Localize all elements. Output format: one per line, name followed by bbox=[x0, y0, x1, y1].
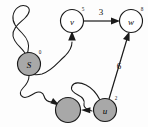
node-v-label: v bbox=[70, 17, 74, 27]
edge-weight-u-w: 6 bbox=[117, 61, 122, 71]
edge-weight-v-w: 3 bbox=[99, 7, 104, 17]
node-s[interactable]: S 0 bbox=[18, 49, 42, 76]
node-unlabeled-circle[interactable] bbox=[56, 98, 81, 123]
node-v[interactable]: v 5 bbox=[61, 6, 85, 33]
edge-u-to-w-arrowhead bbox=[123, 32, 130, 42]
node-v-superscript: 5 bbox=[82, 6, 85, 12]
node-s-label: S bbox=[27, 60, 32, 70]
edge-v-to-w-arrowhead bbox=[111, 18, 120, 25]
graph-figure: v 5 w 8 S 0 u 2 3 6 bbox=[0, 0, 148, 127]
node-s-superscript: 0 bbox=[39, 49, 42, 55]
node-w-superscript: 8 bbox=[141, 6, 144, 12]
node-w[interactable]: w 8 bbox=[120, 6, 144, 33]
node-u-superscript: 2 bbox=[115, 95, 118, 101]
node-u[interactable]: u 2 bbox=[94, 95, 118, 122]
node-w-label: w bbox=[128, 17, 134, 27]
graph-canvas: v 5 w 8 S 0 u 2 3 6 bbox=[0, 0, 148, 127]
node-u-label: u bbox=[103, 106, 108, 116]
edge-v-to-w bbox=[84, 18, 120, 25]
node-unlabeled[interactable] bbox=[56, 98, 81, 123]
edge-s-to-node1 bbox=[20, 76, 60, 106]
edge-s-to-node1-path bbox=[20, 76, 52, 102]
